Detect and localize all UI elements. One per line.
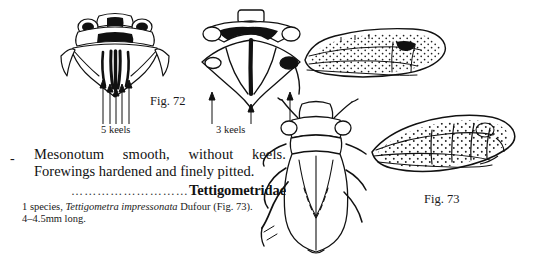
couplet-line-1: Mesonotum smooth, without keels. <box>34 146 286 163</box>
key-couplet: - Mesonotum smooth, without keels. Forew… <box>0 146 292 224</box>
figure-forewing-lower <box>368 108 518 186</box>
family-name: Tettigometridae <box>189 182 286 198</box>
figure-forewing-upper <box>297 22 449 94</box>
family-determination-line: ………………………Tettigometridae <box>34 182 286 199</box>
couplet-text: Mesonotum smooth, without keels. Forewin… <box>34 146 286 180</box>
forewing-upper-drawing <box>297 22 449 94</box>
species-binomial: Tettigometra impressonata <box>65 201 177 212</box>
forewing-lower-drawing <box>368 108 518 186</box>
document-page: 5 keels 3 keels Fig. 72 Fig. 73 - Mesono… <box>0 0 543 270</box>
caption-fig-72: Fig. 72 <box>150 94 185 109</box>
couplet-marker: - <box>10 152 15 166</box>
caption-fig-73: Fig. 73 <box>424 192 459 207</box>
species-note: 1 species, Tettigometra impressonata Duf… <box>22 201 258 224</box>
couplet-line-2: Forewings hardened and finely pitted. <box>34 163 286 180</box>
dot-leader: ……………………… <box>71 184 189 198</box>
keel-arrows-5 <box>100 80 132 124</box>
note-prefix: 1 species, <box>22 201 65 212</box>
label-5-keels: 5 keels <box>101 124 130 135</box>
couplet-line-1-text: Mesonotum smooth, without keels. <box>34 146 286 162</box>
label-3-keels: 3 keels <box>216 124 245 135</box>
